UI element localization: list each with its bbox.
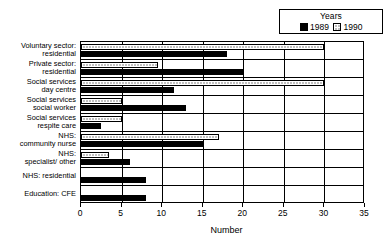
x-tick-label-30: 30 bbox=[319, 208, 328, 218]
bar-1989-8 bbox=[81, 177, 146, 183]
plot-area bbox=[80, 41, 364, 203]
x-tick-5 bbox=[121, 203, 122, 207]
category-label-education-cfe: Education: CFE bbox=[0, 185, 78, 203]
x-tick-10 bbox=[161, 203, 162, 207]
legend-entry-1989: 1989 bbox=[300, 23, 329, 32]
legend-label-1990: 1990 bbox=[344, 23, 363, 32]
category-label-nhs-community-nurse: NHS: community nurse bbox=[0, 131, 78, 149]
bar-row bbox=[81, 150, 363, 168]
legend-entry-1990: 1990 bbox=[333, 23, 362, 32]
category-label-nhs-residential: NHS: residential bbox=[0, 167, 78, 185]
bar-row bbox=[81, 114, 363, 132]
legend-entries: 1989 1990 bbox=[280, 23, 382, 32]
x-axis-title: Number bbox=[0, 225, 391, 235]
legend-title: Years bbox=[280, 12, 382, 21]
bar-row bbox=[81, 132, 363, 150]
x-tick-15 bbox=[202, 203, 203, 207]
bar-1989-6 bbox=[81, 141, 203, 147]
x-tick-label-25: 25 bbox=[278, 208, 287, 218]
bar-chart-figure: Years 1989 1990 Voluntary sector: reside… bbox=[0, 0, 391, 248]
x-tick-35 bbox=[364, 203, 365, 207]
x-tick-label-10: 10 bbox=[156, 208, 165, 218]
chart-legend: Years 1989 1990 bbox=[279, 9, 383, 34]
bar-1990-3 bbox=[81, 80, 324, 86]
category-label-social-services-day-centre: Social services day centre bbox=[0, 77, 78, 95]
bar-1990-7 bbox=[81, 152, 109, 158]
bar-1990-1 bbox=[81, 44, 324, 50]
bar-row bbox=[81, 78, 363, 96]
bar-1989-9 bbox=[81, 195, 146, 201]
bar-1989-1 bbox=[81, 51, 227, 57]
x-tick-label-15: 15 bbox=[197, 208, 206, 218]
category-label-private-sector-residential: Private sector: residential bbox=[0, 59, 78, 77]
bar-1989-2 bbox=[81, 69, 243, 75]
bar-row bbox=[81, 60, 363, 78]
bar-1990-2 bbox=[81, 62, 158, 68]
x-tick-label-20: 20 bbox=[238, 208, 247, 218]
bar-1989-5 bbox=[81, 123, 101, 129]
x-tick-label-5: 5 bbox=[118, 208, 123, 218]
bar-rows bbox=[81, 42, 363, 202]
x-tick-25 bbox=[283, 203, 284, 207]
x-tick-30 bbox=[323, 203, 324, 207]
bar-row bbox=[81, 96, 363, 114]
category-axis-labels: Voluntary sector: residential Private se… bbox=[0, 41, 78, 203]
legend-label-1989: 1989 bbox=[310, 23, 329, 32]
bar-1990-4 bbox=[81, 98, 122, 104]
legend-swatch-1989-icon bbox=[300, 23, 308, 31]
category-label-social-services-respite-care: Social services respite care bbox=[0, 113, 78, 131]
x-tick-label-35: 35 bbox=[359, 208, 368, 218]
bar-row bbox=[81, 42, 363, 60]
bar-1990-6 bbox=[81, 134, 219, 140]
legend-swatch-1990-icon bbox=[333, 23, 341, 31]
x-tick-label-0: 0 bbox=[78, 208, 83, 218]
x-tick-0 bbox=[80, 203, 81, 207]
category-label-social-services-social-worker: Social services social worker bbox=[0, 95, 78, 113]
bar-1989-3 bbox=[81, 87, 174, 93]
bar-1990-5 bbox=[81, 116, 122, 122]
bar-row bbox=[81, 186, 363, 204]
bar-row bbox=[81, 168, 363, 186]
bar-1989-7 bbox=[81, 159, 130, 165]
category-label-voluntary-sector-residential: Voluntary sector: residential bbox=[0, 41, 78, 59]
x-tick-20 bbox=[242, 203, 243, 207]
category-label-nhs-specialist-other: NHS: specialist/ other bbox=[0, 149, 78, 167]
bar-1989-4 bbox=[81, 105, 186, 111]
